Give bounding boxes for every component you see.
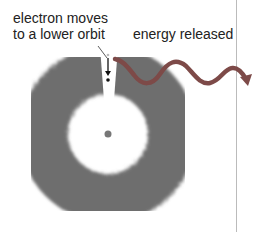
electron-origin: [107, 54, 110, 57]
electron: [106, 78, 110, 82]
electron-label-line1: electron moves: [13, 10, 108, 26]
electron-label-line2: to a lower orbit: [13, 26, 108, 42]
energy-label: energy released: [133, 26, 233, 42]
nucleus: [105, 131, 112, 138]
electron-label: electron moves to a lower orbit: [13, 10, 108, 42]
